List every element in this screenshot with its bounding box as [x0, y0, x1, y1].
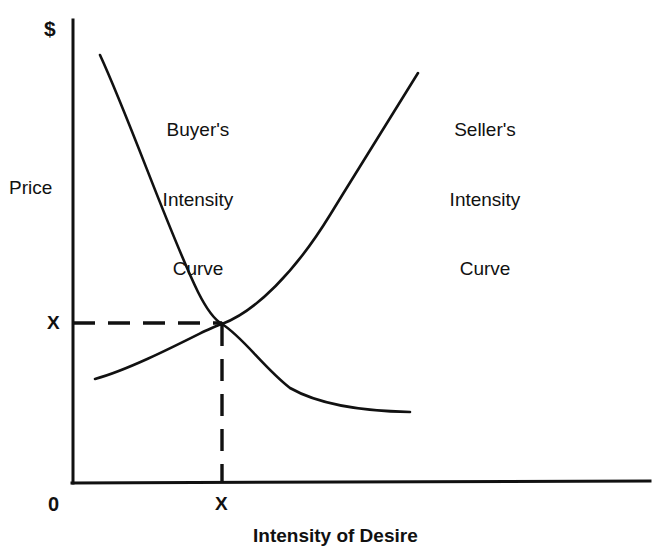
- y-axis-unit-symbol: $: [44, 16, 56, 42]
- buyer-annotation-line-2: Intensity: [133, 188, 263, 211]
- diagram-canvas: [0, 0, 669, 552]
- x-axis-title: Intensity of Desire: [253, 524, 418, 547]
- buyer-annotation-line-3: Curve: [133, 257, 263, 280]
- equilibrium-price-tick-label: X: [47, 311, 60, 334]
- supply-demand-figure: $ Price X 0 X Intensity of Desire Buyer'…: [0, 0, 669, 552]
- seller-curve-annotation: Seller's Intensity Curve: [420, 72, 550, 327]
- seller-annotation-line-3: Curve: [420, 257, 550, 280]
- equilibrium-quantity-tick-label: X: [215, 492, 228, 515]
- y-axis-title: Price: [9, 176, 52, 199]
- origin-label: 0: [48, 492, 59, 516]
- buyer-curve-annotation: Buyer's Intensity Curve: [133, 72, 263, 327]
- x-axis-line: [72, 481, 650, 483]
- seller-annotation-line-2: Intensity: [420, 188, 550, 211]
- seller-annotation-line-1: Seller's: [420, 118, 550, 141]
- buyer-annotation-line-1: Buyer's: [133, 118, 263, 141]
